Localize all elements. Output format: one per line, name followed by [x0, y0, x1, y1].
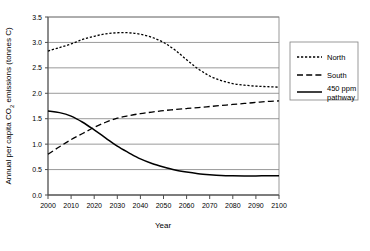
- legend-label-north: North: [327, 53, 345, 62]
- emissions-line-chart: 0.00.51.01.52.02.53.03.5 200020102020203…: [0, 0, 370, 251]
- legend-label-450-ppm-pathway-line2: pathway: [327, 93, 355, 102]
- y-tick-label: 3.0: [32, 39, 42, 46]
- legend-label-south: South: [327, 71, 347, 80]
- x-tick-label: 2030: [110, 202, 126, 209]
- legend-label-450-ppm-pathway: 450 ppm: [327, 84, 356, 93]
- chart-legend: NorthSouth450 ppmpathway: [290, 42, 358, 102]
- y-tick-label: 2.0: [32, 90, 42, 97]
- x-tick-label: 2070: [202, 202, 218, 209]
- x-tick-label: 2080: [225, 202, 241, 209]
- y-tick-label: 0.0: [32, 192, 42, 199]
- y-tick-label: 2.5: [32, 64, 42, 71]
- x-tick-label: 2100: [271, 202, 287, 209]
- x-tick-label: 2090: [248, 202, 264, 209]
- x-tick-label: 2060: [179, 202, 195, 209]
- x-tick-label: 2000: [40, 202, 56, 209]
- y-tick-label: 1.0: [32, 141, 42, 148]
- y-tick-label: 1.5: [32, 115, 42, 122]
- x-axis-title: Year: [155, 221, 172, 230]
- chart-background: [0, 0, 370, 251]
- x-tick-label: 2010: [63, 202, 79, 209]
- x-tick-label: 2050: [156, 202, 172, 209]
- y-tick-label: 0.5: [32, 166, 42, 173]
- y-tick-label: 3.5: [32, 14, 42, 21]
- x-tick-label: 2040: [133, 202, 149, 209]
- x-tick-label: 2020: [86, 202, 102, 209]
